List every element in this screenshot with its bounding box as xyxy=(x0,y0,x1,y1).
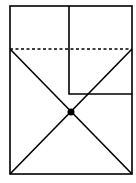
outer-rectangle xyxy=(10,6,132,174)
intersection-point xyxy=(68,109,75,116)
geometry-diagram xyxy=(0,0,136,183)
